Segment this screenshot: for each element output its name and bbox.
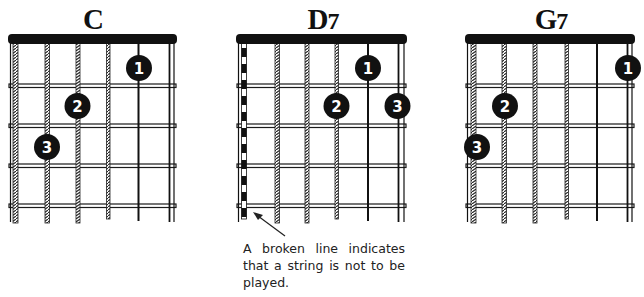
- svg-text:3: 3: [472, 139, 482, 157]
- frets: [9, 84, 176, 208]
- string-3: [533, 42, 537, 223]
- string-3: [305, 42, 309, 223]
- string-3: [76, 42, 80, 223]
- string-2: [275, 42, 280, 223]
- muted-string-caption: A broken line indicates that a string is…: [243, 240, 405, 291]
- strings: [471, 42, 628, 223]
- finger-dot-1: 1: [355, 55, 381, 81]
- finger-dot-3: 3: [34, 134, 60, 160]
- svg-text:2: 2: [331, 98, 341, 116]
- string-2: [502, 42, 507, 223]
- frets: [237, 84, 406, 208]
- fretboard-c: 1 2 3: [8, 34, 177, 223]
- finger-dot-1: 1: [126, 55, 152, 81]
- string-1: [13, 42, 18, 223]
- svg-text:1: 1: [623, 60, 633, 78]
- svg-text:2: 2: [72, 98, 82, 116]
- fretboard-g7: 1 2 3: [464, 34, 641, 223]
- finger-dot-1: 1: [615, 55, 641, 81]
- svg-text:1: 1: [134, 60, 144, 78]
- string-4: [335, 42, 339, 219]
- nut: [465, 34, 635, 44]
- string-4: [565, 42, 569, 219]
- string-1-muted: [242, 42, 247, 219]
- svg-text:3: 3: [42, 139, 52, 157]
- string-1: [471, 42, 476, 223]
- svg-text:1: 1: [363, 60, 373, 78]
- frets: [466, 84, 634, 208]
- string-2: [45, 42, 50, 223]
- finger-dot-2: 2: [324, 93, 350, 119]
- nut: [236, 34, 407, 44]
- arrow-icon: [253, 212, 285, 236]
- finger-dot-3: 3: [385, 93, 411, 119]
- finger-dot-2: 2: [65, 93, 91, 119]
- svg-text:3: 3: [392, 98, 402, 116]
- finger-dot-2: 2: [492, 93, 518, 119]
- finger-dot-3: 3: [464, 134, 490, 160]
- nut: [8, 34, 177, 44]
- string-4: [107, 42, 111, 219]
- fretboard-d7: 1 2 3: [236, 34, 411, 236]
- svg-text:2: 2: [500, 98, 510, 116]
